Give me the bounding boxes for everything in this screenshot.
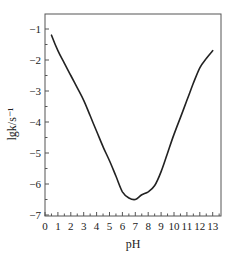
x-tick-label: 6 xyxy=(120,220,126,232)
x-axis-title: pH xyxy=(126,237,141,251)
y-tick-label: −7 xyxy=(29,209,41,221)
y-axis-title: lgk/s⁻¹ xyxy=(5,107,19,140)
y-tick-label: −2 xyxy=(29,54,41,66)
x-tick-label: 9 xyxy=(158,220,164,232)
y-tick-label: −3 xyxy=(29,85,41,97)
x-tick-label: 12 xyxy=(194,220,205,232)
x-tick-label: 13 xyxy=(207,220,219,232)
y-axis: −1−2−3−4−5−6−7 xyxy=(29,23,49,221)
data-line xyxy=(52,35,213,199)
x-tick-label: 3 xyxy=(81,220,87,232)
x-tick-label: 11 xyxy=(182,220,193,232)
plot-frame xyxy=(45,14,221,216)
y-tick-label: −4 xyxy=(29,116,41,128)
x-tick-label: 0 xyxy=(42,220,48,232)
y-tick-label: −1 xyxy=(29,23,41,35)
y-tick-label: −5 xyxy=(29,147,41,159)
x-tick-label: 1 xyxy=(55,220,61,232)
x-tick-label: 7 xyxy=(133,220,139,232)
x-tick-label: 2 xyxy=(68,220,74,232)
x-tick-label: 8 xyxy=(145,220,151,232)
line-chart: −1−2−3−4−5−6−7 012345678910111213 pH lgk… xyxy=(0,0,231,260)
x-tick-label: 10 xyxy=(169,220,181,232)
y-tick-label: −6 xyxy=(29,178,41,190)
x-axis: 012345678910111213 xyxy=(42,212,219,232)
x-tick-label: 5 xyxy=(107,220,113,232)
x-tick-label: 4 xyxy=(94,220,100,232)
